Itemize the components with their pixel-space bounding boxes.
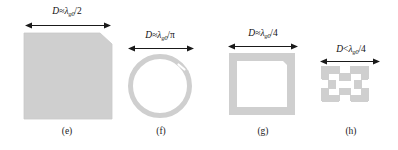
figure-panel-group: D≈λg0/2 (e) D≈λg0/π (f) <box>0 0 398 150</box>
caption-e: (e) <box>43 126 91 136</box>
shape-minkowski-fractal-loop-h <box>319 64 381 118</box>
shape-square-loop-resonator-g <box>227 51 299 117</box>
shape-split-ring-resonator-f <box>126 52 196 122</box>
dimension-label-g: D≈λg0/4 <box>230 28 296 41</box>
caption-h: (h) <box>327 126 375 136</box>
dimension-label-e: D≈λg0/2 <box>26 6 108 19</box>
dimension-arrow-g <box>227 42 299 51</box>
dimension-label-h: D<λg0/4 <box>320 44 382 57</box>
dimension-arrow-e <box>24 21 112 30</box>
shape-chamfered-square-patch-e <box>22 31 114 121</box>
caption-f: (f) <box>137 126 185 136</box>
caption-g: (g) <box>239 126 287 136</box>
dimension-label-f: D≈λg0/π <box>129 30 191 43</box>
